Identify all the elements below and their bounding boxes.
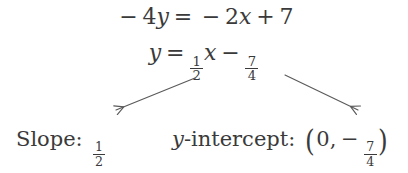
y-intercept-denominator: 4 (364, 155, 377, 168)
plus-sign: + (252, 4, 280, 29)
slope-result: Slope: 12 (16, 127, 106, 168)
paren-open: ( (306, 130, 316, 152)
slope-fraction-numerator: 1 (190, 55, 203, 69)
minus-sign-line2: − (216, 40, 244, 65)
intercept-fraction-numerator: 7 (245, 55, 258, 69)
equals-sign-line2: = (161, 40, 189, 65)
variable-x-line2: x (204, 40, 216, 65)
y-intercept-label-text: -intercept: (184, 127, 295, 151)
y-intercept-numerator: 7 (364, 141, 377, 154)
equals-sign-line1: = (169, 4, 197, 29)
intercept-fraction-line2: 74 (245, 55, 258, 83)
y-intercept-result: y-intercept: (0,−74) (172, 127, 389, 168)
variable-y-line2: y (149, 40, 161, 65)
slope-result-numerator: 1 (93, 141, 106, 154)
minus-sign-intercept: − (336, 127, 363, 151)
constant-7: 7 (280, 4, 294, 29)
y-intercept-fraction: 74 (364, 141, 377, 168)
equation-line-2: y=12x−74 (0, 40, 408, 83)
slope-result-fraction: 12 (93, 141, 106, 168)
slope-fraction-denominator: 2 (190, 69, 203, 83)
slope-result-denominator: 2 (93, 155, 106, 168)
variable-y-line1: y (156, 4, 168, 29)
paren-close: ) (378, 130, 388, 152)
slope-result-label: Slope: (16, 127, 83, 151)
intercept-fraction-denominator: 4 (245, 69, 258, 83)
slope-fraction-line2: 12 (190, 55, 203, 83)
y-intercept-x-value: 0 (316, 127, 329, 151)
minus-sign-1: − (114, 4, 142, 29)
equation-line-1: −4y=−2x+7 (0, 4, 408, 29)
y-intercept-label-variable: y (172, 127, 184, 151)
coefficient-4: 4 (142, 4, 156, 29)
y-intercept-comma: , (330, 127, 337, 151)
variable-x-line1: x (239, 4, 251, 29)
coefficient-2: 2 (225, 4, 239, 29)
minus-sign-2: − (197, 4, 225, 29)
math-figure: −4y=−2x+7 y=12x−74 Slope: 12 y-intercept… (0, 0, 408, 173)
